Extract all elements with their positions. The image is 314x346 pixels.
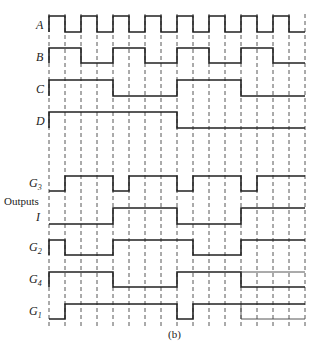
outputs-label: Outputs <box>4 195 39 207</box>
signal-label-c: C <box>36 82 45 96</box>
signal-label-g4: G4 <box>29 272 42 288</box>
signal-label-g1: G1 <box>29 304 42 320</box>
waveform-g3 <box>49 176 305 191</box>
waveform-a <box>49 16 305 32</box>
signal-label-g3: G3 <box>29 176 42 192</box>
waveform-i <box>49 208 305 224</box>
signal-labels: ABCDG3IG2G4G1 <box>29 18 45 320</box>
waveforms <box>49 16 305 319</box>
signal-label-b: B <box>36 50 44 64</box>
waveform-d <box>49 112 305 128</box>
waveform-g1 <box>49 304 305 319</box>
waveform-c <box>49 80 305 96</box>
waveform-g4 <box>49 272 305 287</box>
timing-diagram: ABCDG3IG2G4G1 Outputs (b) <box>0 0 314 346</box>
figure-caption: (b) <box>168 328 181 341</box>
signal-label-a: A <box>35 18 44 32</box>
waveform-b <box>49 48 305 63</box>
signal-label-d: D <box>35 114 45 128</box>
signal-label-i: I <box>35 210 41 224</box>
signal-label-g2: G2 <box>29 240 42 256</box>
